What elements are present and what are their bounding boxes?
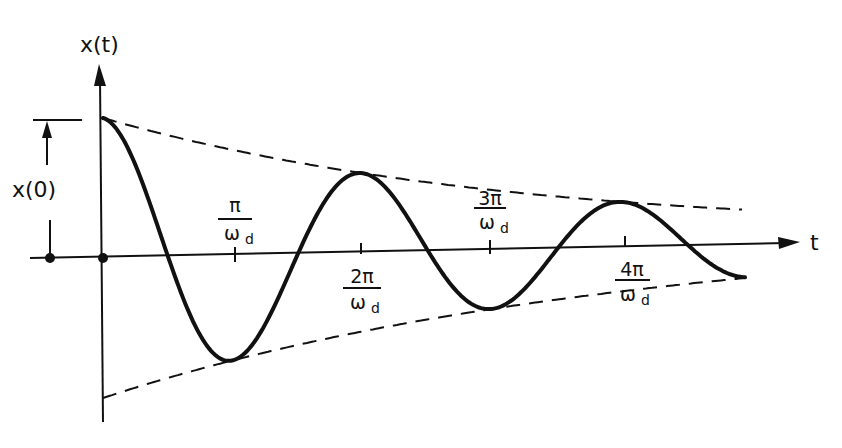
svg-text:2π: 2π	[350, 265, 374, 287]
tick-label-pi: π ω d	[218, 194, 254, 247]
svg-text:d: d	[500, 220, 509, 236]
svg-text:π: π	[229, 194, 240, 216]
tick-label-2pi: 2π ω d	[343, 265, 381, 316]
x-axis-arrow-icon	[778, 237, 800, 249]
svg-text:ω: ω	[350, 291, 366, 313]
y-axis-label: x(t)	[80, 32, 119, 57]
dimension-arrow-icon	[42, 121, 52, 138]
svg-text:3π: 3π	[478, 187, 502, 209]
damped-oscillation-diagram: x(t) t x(0) π ω d 2π ω d 3π ω d 4π ω d	[0, 0, 842, 448]
svg-text:ω: ω	[224, 222, 240, 244]
tick-label-3pi: 3π ω d	[474, 187, 509, 236]
svg-text:ω: ω	[620, 283, 636, 305]
y-axis-arrow-icon	[94, 64, 106, 86]
tick-label-4pi: 4π ω d	[615, 258, 650, 308]
response-curve	[103, 118, 745, 361]
svg-text:d: d	[371, 300, 380, 316]
svg-text:d: d	[641, 292, 650, 308]
svg-text:d: d	[245, 231, 254, 247]
upper-envelope	[103, 118, 742, 210]
origin-dot	[98, 253, 108, 263]
amplitude-label: x(0)	[12, 177, 56, 202]
svg-text:ω: ω	[479, 211, 495, 233]
x-axis-label: t	[810, 230, 819, 255]
svg-text:4π: 4π	[620, 258, 644, 280]
